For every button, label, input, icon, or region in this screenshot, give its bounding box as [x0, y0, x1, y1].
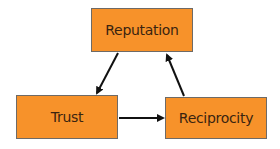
edge-reciprocity-to-reputation — [167, 55, 184, 96]
node-label: Reciprocity — [179, 110, 253, 126]
node-trust: Trust — [16, 95, 118, 139]
node-label: Trust — [51, 109, 83, 125]
node-label: Reputation — [105, 22, 178, 38]
node-reciprocity: Reciprocity — [165, 97, 267, 139]
edge-reputation-to-trust — [97, 53, 118, 93]
node-reputation: Reputation — [91, 8, 193, 52]
